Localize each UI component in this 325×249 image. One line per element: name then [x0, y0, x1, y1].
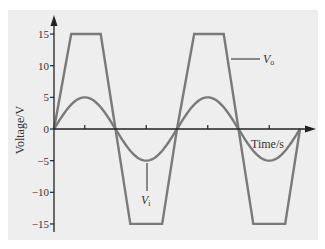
x-axis-label: Time/s [251, 137, 284, 151]
y-tick-label: 5 [44, 91, 50, 103]
y-tick-label: 0 [44, 123, 50, 135]
y-tick-label: −10 [32, 186, 50, 198]
y-tick-label: 15 [38, 28, 50, 40]
y-tick-label: 10 [38, 60, 50, 72]
y-tick-label: −5 [37, 155, 49, 167]
y-axis-label: Voltage/V [13, 105, 27, 154]
chart: 151050−5−10−15 Voltage/V Time/s Vo Vi [0, 0, 325, 249]
y-tick-label: −15 [32, 218, 50, 230]
